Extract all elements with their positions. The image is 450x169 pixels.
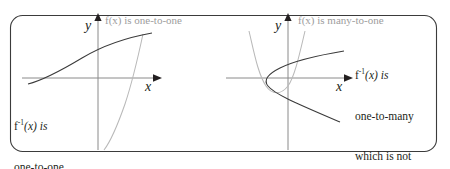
label-finv-one-to-one-line1: f-1(x) is xyxy=(14,119,64,133)
label-finv-one-to-one-line2: one-to-one xyxy=(14,161,64,169)
left-x-axis-label: x xyxy=(145,79,151,95)
label-finv-one-to-many-line1: f-1(x) is xyxy=(355,68,414,82)
label-finv-one-to-many-line3: which is not xyxy=(355,150,414,164)
figure-container: y x y x f(x) is one-to-one f-1(x) is one… xyxy=(0,0,450,169)
finv-arg-glyph-right: (x) is xyxy=(365,69,388,81)
right-y-axis-label: y xyxy=(275,18,281,34)
left-y-axis-label: y xyxy=(85,18,91,34)
finv-arg-glyph: (x) is xyxy=(24,120,47,132)
label-f-many-to-one: f(x) is many-to-one xyxy=(298,14,384,27)
label-f-one-to-one: f(x) is one-to-one xyxy=(105,14,182,27)
label-finv-one-to-many: f-1(x) is one-to-many which is not a fun… xyxy=(355,41,414,169)
label-finv-one-to-many-line2: one-to-many xyxy=(355,110,414,124)
label-finv-one-to-one: f-1(x) is one-to-one xyxy=(14,92,64,169)
right-x-axis-label: x xyxy=(336,79,342,95)
